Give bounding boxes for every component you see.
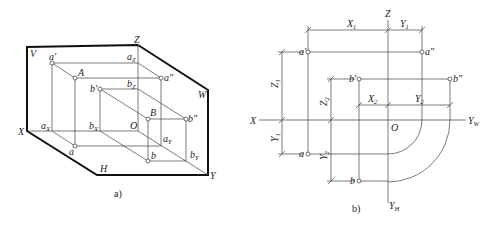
b-a-double-prime-marker <box>420 50 424 54</box>
projection-diagram: Z X Y O V H W a' A a" a aX aZ aY b' B b"… <box>0 0 498 225</box>
point-b-prime-marker <box>98 87 102 91</box>
b-b-double-prime-marker <box>448 77 452 81</box>
b-b-label: b <box>350 175 355 186</box>
b-a-marker <box>306 152 310 156</box>
b-double-prime-label: b" <box>188 113 198 124</box>
figure-a-isometric: Z X Y O V H W a' A a" a aX aZ aY b' B b"… <box>17 34 217 200</box>
svg-text:Y2: Y2 <box>318 150 330 160</box>
b-yw-label: YW <box>468 115 480 127</box>
ax-label: aX <box>41 120 51 132</box>
b-b-double-prime-label: b" <box>453 73 463 84</box>
a-prime-label: a' <box>49 51 57 62</box>
point-b-construction <box>100 89 186 161</box>
svg-text:Z1: Z1 <box>269 79 281 88</box>
a-double-prime-label: a" <box>164 72 174 83</box>
a-label: a <box>69 146 74 157</box>
z-axis-label: Z <box>134 34 140 45</box>
y-axis <box>138 131 208 175</box>
b-z-label: Z <box>385 8 391 19</box>
az-label: aZ <box>127 51 136 63</box>
dim-y1-left-label: Y1 <box>269 133 281 142</box>
point-a-construction <box>52 63 161 146</box>
bz-label: bZ <box>127 78 136 90</box>
b-prime-label: b' <box>90 83 98 94</box>
bx-label: bX <box>89 120 99 132</box>
b-b-marker <box>357 179 361 183</box>
dim-y2-top-label: Y2 <box>415 93 425 105</box>
by-label: bY <box>190 149 200 161</box>
svg-text:Y1: Y1 <box>269 133 281 142</box>
dim-x2-label: X2 <box>367 93 378 105</box>
dim-z2-label: Z2 <box>318 96 330 106</box>
b-yh-label: YH <box>389 200 400 212</box>
plane-v-label: V <box>30 48 38 59</box>
b-b-prime-marker <box>357 77 361 81</box>
point-A-marker <box>73 76 77 80</box>
b-a-label: a <box>299 148 304 159</box>
ay-label: aY <box>163 133 173 145</box>
point-b-marker <box>146 159 150 163</box>
plane-h-label: H <box>99 163 108 174</box>
b-origin-label: O <box>391 122 398 133</box>
dim-y2-left-label: Y2 <box>318 150 330 160</box>
b-x-label: X <box>249 115 257 126</box>
b-b-prime-label: b' <box>349 73 357 84</box>
B-label: B <box>150 107 156 118</box>
figure-a-caption: a) <box>114 188 122 200</box>
b-label: b <box>151 150 156 161</box>
origin-label: O <box>130 120 137 131</box>
point-a-double-prime-marker <box>159 76 163 80</box>
b-a-prime-marker <box>306 50 310 54</box>
x-axis-label: X <box>17 126 25 137</box>
dim-y1-top-label: Y1 <box>400 18 409 30</box>
figure-b-caption: b) <box>352 203 360 215</box>
b-a-double-prime-label: a" <box>425 46 435 57</box>
dim-z1-label: Z1 <box>269 79 281 88</box>
dim-x1-label: X1 <box>346 18 356 30</box>
A-label: A <box>77 67 85 78</box>
plane-w-label: W <box>198 89 208 100</box>
y-axis-label: Y <box>210 170 217 181</box>
figure-b-orthographic: Z X O YW YH a' a" a b' b" b X1 Y1 X2 Y2 … <box>249 8 480 215</box>
b-a-prime-label: a' <box>299 46 307 57</box>
svg-text:Z2: Z2 <box>318 96 330 106</box>
